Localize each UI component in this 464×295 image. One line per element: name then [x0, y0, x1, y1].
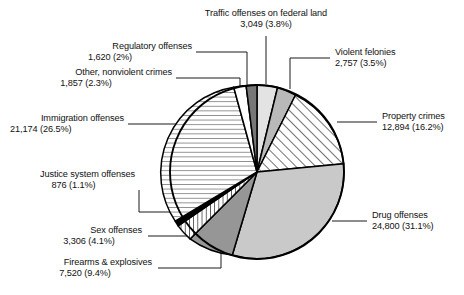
- label-sex-name: Sex offenses: [42, 225, 142, 236]
- label-justice-name: Justice system offenses: [14, 169, 135, 180]
- label-immigration-name: Immigration offenses: [4, 113, 124, 124]
- label-violent: Violent felonies 2,757 (3.5%): [335, 47, 435, 70]
- label-justice-value: 876 (1.1%): [14, 180, 135, 191]
- label-other: Other, nonviolent crimes 1,857 (2.3%): [30, 67, 172, 90]
- label-sex: Sex offenses 3,306 (4.1%): [42, 225, 142, 248]
- label-drug: Drug offenses 24,800 (31.1%): [372, 210, 464, 233]
- label-traffic: Traffic offenses on federal land 3,049 (…: [168, 8, 364, 31]
- label-firearms-name: Firearms & explosives: [26, 257, 152, 268]
- leader-line-other: [176, 78, 240, 87]
- label-sex-value: 3,306 (4.1%): [42, 236, 142, 247]
- label-immigration-value: 21,174 (26.5%): [4, 124, 124, 135]
- label-property: Property crimes 12,894 (16.2%): [382, 111, 464, 134]
- pie-chart: Traffic offenses on federal land 3,049 (…: [0, 0, 464, 295]
- label-regulatory-value: 1,620 (2%): [52, 52, 192, 63]
- label-drug-name: Drug offenses: [372, 210, 464, 221]
- label-violent-value: 2,757 (3.5%): [335, 58, 435, 69]
- label-property-value: 12,894 (16.2%): [382, 122, 464, 133]
- label-other-name: Other, nonviolent crimes: [30, 67, 172, 78]
- label-immigration: Immigration offenses 21,174 (26.5%): [4, 113, 124, 136]
- leader-line-firearms: [158, 253, 221, 268]
- label-firearms-value: 7,520 (9.4%): [26, 268, 152, 279]
- label-violent-name: Violent felonies: [335, 47, 435, 58]
- label-other-value: 1,857 (2.3%): [30, 78, 172, 89]
- label-firearms: Firearms & explosives 7,520 (9.4%): [26, 257, 152, 280]
- label-traffic-name: Traffic offenses on federal land: [168, 8, 364, 19]
- label-regulatory-name: Regulatory offenses: [52, 41, 192, 52]
- label-regulatory: Regulatory offenses 1,620 (2%): [52, 41, 192, 64]
- leader-line-regulatory: [196, 52, 247, 85]
- label-property-name: Property crimes: [382, 111, 464, 122]
- label-justice: Justice system offenses 876 (1.1%): [14, 169, 135, 192]
- label-traffic-value: 3,049 (3.8%): [168, 19, 364, 30]
- leader-line-violent: [290, 58, 330, 89]
- label-drug-value: 24,800 (31.1%): [372, 221, 464, 232]
